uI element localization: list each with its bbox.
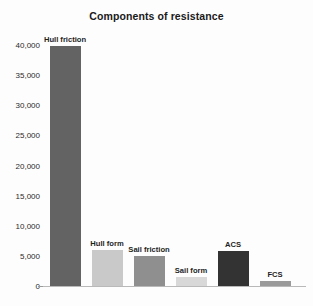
x-axis-zero-tick [38,286,43,287]
bar[interactable] [176,277,207,286]
bar-label: Hull form [90,239,123,248]
bar-label: Hull friction [44,35,86,44]
bar-label: Sail form [175,266,208,275]
y-tick-label: 10,000 [0,221,40,230]
y-axis: 05,00010,00015,00020,00025,00030,00035,0… [0,0,40,306]
chart-title: Components of resistance [0,10,313,22]
bar-label: Sail friction [128,245,169,254]
bar[interactable] [218,251,249,286]
y-tick-label: 20,000 [0,161,40,170]
y-tick-label: 15,000 [0,191,40,200]
bar[interactable] [92,250,123,286]
bar-label: ACS [225,240,241,249]
y-tick-label: 40,000 [0,41,40,50]
y-tick-label: 25,000 [0,131,40,140]
bar-group: Sail friction [134,45,165,286]
y-tick-label: 5,000 [0,251,40,260]
bar-group: Hull form [92,45,123,286]
bar-group: Hull friction [50,45,81,286]
bar-label: FCS [267,270,282,279]
bar[interactable] [50,46,81,286]
plot-area: Hull frictionHull formSail frictionSail … [44,45,296,286]
y-tick-label: 30,000 [0,101,40,110]
y-tick-label: 0 [0,282,40,291]
bar[interactable] [260,281,291,286]
bar[interactable] [134,256,165,286]
bar-group: ACS [218,45,249,286]
y-tick-label: 35,000 [0,71,40,80]
x-axis-line [38,286,306,287]
bar-group: FCS [260,45,291,286]
bar-chart: Components of resistance 05,00010,00015,… [0,0,313,306]
bar-group: Sail form [176,45,207,286]
